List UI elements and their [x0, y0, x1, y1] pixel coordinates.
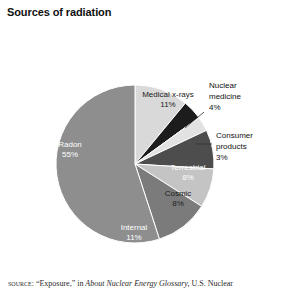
slice-label-terrestrial: Terrestrial — [170, 163, 205, 172]
pie-chart: Medical x-rays 11% Terrestrial 8% Cosmic… — [0, 30, 307, 270]
source-citation-work-title: About Nuclear Energy Glossary, — [85, 279, 189, 288]
slice-value-radon: 55% — [62, 150, 78, 159]
callout-value-consumer-products: 3% — [216, 153, 228, 162]
slice-label-internal: Internal — [121, 223, 148, 232]
page-title: Sources of radiation — [7, 6, 111, 18]
callout-label-nuclear-medicine-line2: medicine — [209, 92, 242, 101]
title-divider — [0, 26, 307, 27]
slice-value-internal: 11% — [126, 233, 141, 242]
figure-root: Sources of radiation Medical x-rays 11% … — [0, 0, 307, 292]
source-citation: source: “Exposure,” in About Nuclear Ene… — [8, 279, 303, 288]
source-citation-connector: in — [77, 279, 83, 288]
slice-value-medical-x-rays: 11% — [160, 100, 175, 109]
callout-value-nuclear-medicine: 4% — [209, 103, 221, 112]
slice-value-terrestrial: 8% — [182, 173, 194, 182]
slice-label-radon: Radon — [58, 140, 82, 149]
slice-label-medical-x-rays: Medical x-rays — [142, 90, 194, 99]
slice-value-cosmic: 8% — [172, 199, 184, 208]
callout-label-consumer-products-line2: products — [216, 142, 247, 151]
source-citation-prefix: source: — [8, 279, 34, 288]
source-citation-quoted: “Exposure,” — [36, 279, 75, 288]
pie-chart-canvas: Medical x-rays 11% Terrestrial 8% Cosmic… — [0, 30, 307, 270]
callout-label-nuclear-medicine-line1: Nuclear — [209, 81, 237, 90]
callout-label-consumer-products-line1: Consumer — [216, 131, 253, 140]
slice-label-cosmic: Cosmic — [165, 189, 192, 198]
source-citation-tail: U.S. Nuclear — [191, 279, 233, 288]
